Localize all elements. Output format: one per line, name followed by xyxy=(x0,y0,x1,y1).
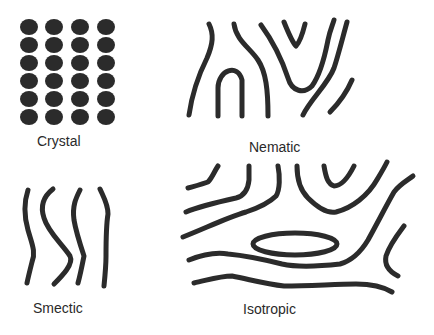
smectic-lines xyxy=(25,189,108,286)
smectic-label: Smectic xyxy=(33,300,83,316)
nematic-label: Nematic xyxy=(249,139,300,155)
nematic-lines xyxy=(189,20,352,116)
crystal-label: Crystal xyxy=(37,133,81,149)
isotropic-lines xyxy=(183,162,413,292)
phase-diagram xyxy=(0,0,434,335)
crystal-dot-grid xyxy=(20,19,115,125)
isotropic-label: Isotropic xyxy=(243,301,296,317)
